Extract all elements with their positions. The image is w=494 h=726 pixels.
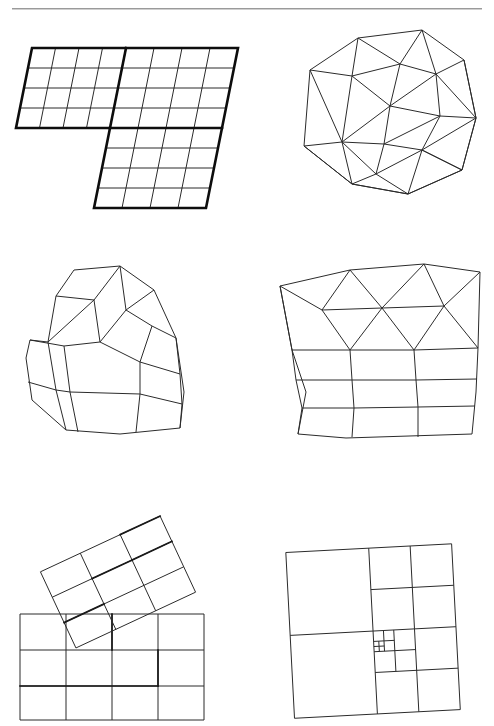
panel-unstructured-quad [8, 252, 218, 442]
mesh-svg-unstructured-quad [8, 252, 218, 442]
quad-edges [26, 266, 184, 434]
triangular-region-edges [280, 264, 480, 350]
mesh-svg-hybrid [272, 252, 494, 444]
panel-hybrid-tri-quad [272, 252, 494, 444]
figure-page: structured-multiblock-quad unstructured-… [0, 0, 494, 726]
panel-structured-multiblock-quad [0, 18, 250, 223]
overset-grid [40, 516, 195, 648]
panel-unstructured-triangular [280, 18, 494, 223]
quad-region-edges [292, 350, 477, 437]
mesh-svg-unstructured-tri [280, 18, 494, 223]
triangle-edges [304, 30, 476, 194]
page-header-rule-shadow [12, 9, 482, 10]
hybrid-boundary [280, 264, 480, 438]
mesh-svg-structured-multiblock [0, 18, 250, 223]
panel-overset-chimera [8, 512, 223, 720]
block-1-interior-lines [20, 48, 122, 128]
quadtree-cells [286, 544, 460, 718]
panel-adaptive-quadtree [278, 538, 478, 726]
mesh-svg-overset [8, 512, 223, 720]
mesh-svg-quadtree [278, 538, 478, 726]
